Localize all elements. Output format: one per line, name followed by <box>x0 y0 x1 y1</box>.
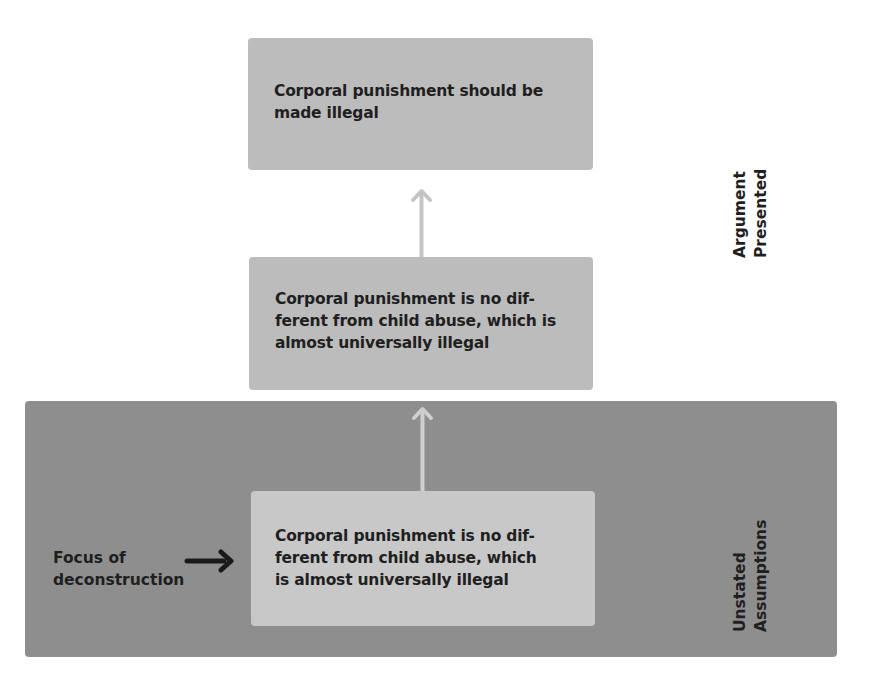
premise-box: Corporal punishment is no dif- ferent fr… <box>249 257 593 390</box>
focus-premise-text: Corporal punishment is no dif- ferent fr… <box>275 525 537 591</box>
focus-premise-box: Corporal punishment is no dif- ferent fr… <box>251 491 595 626</box>
up-arrow-icon <box>409 186 435 258</box>
premise-text: Corporal punishment is no dif- ferent fr… <box>275 288 556 354</box>
focus-of-deconstruction-label: Focus of deconstruction <box>53 547 184 591</box>
right-arrow-icon <box>184 549 236 573</box>
conclusion-box: Corporal punishment should be made illeg… <box>248 38 593 170</box>
up-arrow-icon <box>410 404 436 492</box>
unstated-assumptions-label: Unstated Assumptions <box>730 520 772 632</box>
conclusion-text: Corporal punishment should be made illeg… <box>274 80 543 124</box>
argument-presented-label: Argument Presented <box>730 169 772 258</box>
